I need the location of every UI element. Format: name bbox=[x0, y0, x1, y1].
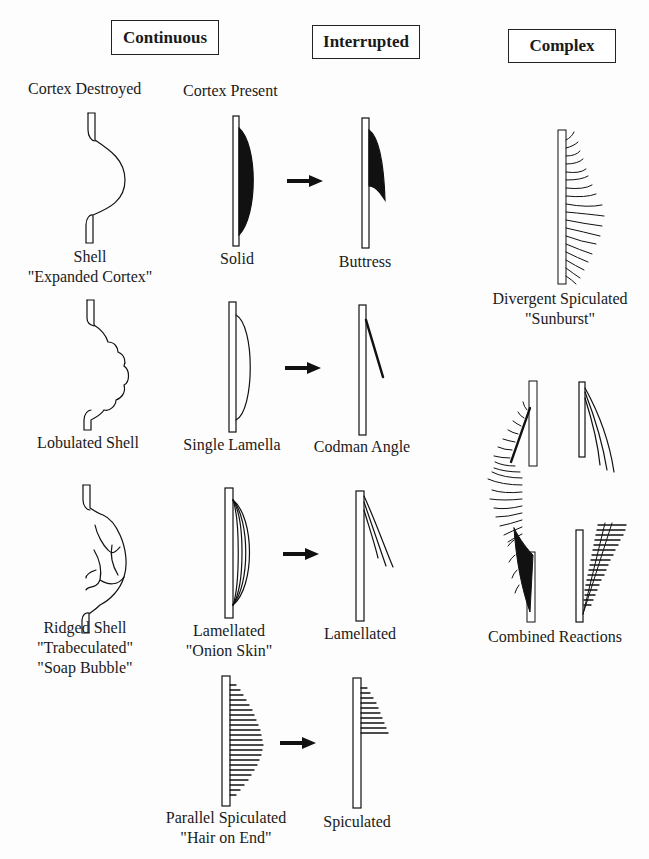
label-sunburst: Divergent Spiculated "Sunburst" bbox=[492, 289, 627, 329]
label-line: "Expanded Cortex" bbox=[28, 267, 153, 287]
label-line: Parallel Spiculated bbox=[166, 808, 286, 828]
label-lamellated-onion-skin: Lamellated "Onion Skin" bbox=[186, 621, 272, 661]
label-lobulated-shell: Lobulated Shell bbox=[37, 433, 139, 453]
lamellated-onion-figure bbox=[225, 488, 250, 618]
solid-figure bbox=[233, 116, 253, 246]
codman-angle-figure bbox=[359, 305, 383, 435]
ridged-shell-figure bbox=[82, 485, 126, 633]
lamellated-interrupted-figure bbox=[356, 491, 393, 621]
label-line: Single Lamella bbox=[183, 435, 280, 455]
periosteal-reaction-diagram bbox=[0, 0, 649, 859]
label-line: "Trabeculated" bbox=[37, 638, 133, 658]
label-line: Divergent Spiculated bbox=[492, 289, 627, 309]
label-line: Shell bbox=[28, 247, 153, 267]
label-spiculated: Spiculated bbox=[323, 812, 391, 832]
arrow-right-icon bbox=[283, 548, 319, 560]
label-ridged-shell: Ridged Shell "Trabeculated" "Soap Bubble… bbox=[37, 618, 133, 678]
label-line: Codman Angle bbox=[314, 437, 410, 457]
label-line: "Sunburst" bbox=[492, 309, 627, 329]
parallel-spiculated-figure bbox=[222, 676, 263, 806]
label-line: "Hair on End" bbox=[166, 828, 286, 848]
label-buttress: Buttress bbox=[339, 252, 391, 272]
arrow-right-icon bbox=[280, 737, 316, 749]
buttress-figure bbox=[362, 118, 385, 248]
label-single-lamella: Single Lamella bbox=[183, 435, 280, 455]
label-parallel-spiculated: Parallel Spiculated "Hair on End" bbox=[166, 808, 286, 848]
label-line: Lobulated Shell bbox=[37, 433, 139, 453]
label-codman-angle: Codman Angle bbox=[314, 437, 410, 457]
label-line: "Soap Bubble" bbox=[37, 658, 133, 678]
combined-right-figure bbox=[576, 382, 626, 622]
sunburst-figure bbox=[558, 130, 604, 284]
arrow-right-icon bbox=[287, 175, 323, 187]
label-shell: Shell "Expanded Cortex" bbox=[28, 247, 153, 287]
arrow-right-icon bbox=[285, 362, 321, 374]
label-line: Ridged Shell bbox=[37, 618, 133, 638]
label-line: Solid bbox=[220, 249, 254, 269]
label-line: Spiculated bbox=[323, 812, 391, 832]
label-line: "Onion Skin" bbox=[186, 641, 272, 661]
label-line: Combined Reactions bbox=[488, 627, 622, 647]
label-line: Buttress bbox=[339, 252, 391, 272]
label-line: Lamellated bbox=[186, 621, 272, 641]
label-line: Lamellated bbox=[324, 624, 396, 644]
shell-figure bbox=[86, 113, 125, 243]
lobulated-shell-figure bbox=[84, 300, 129, 430]
single-lamella-figure bbox=[229, 302, 250, 432]
combined-left-figure bbox=[488, 381, 537, 622]
label-lamellated-interrupted: Lamellated bbox=[324, 624, 396, 644]
label-solid: Solid bbox=[220, 249, 254, 269]
label-combined-reactions: Combined Reactions bbox=[488, 627, 622, 647]
spiculated-figure bbox=[353, 678, 388, 808]
